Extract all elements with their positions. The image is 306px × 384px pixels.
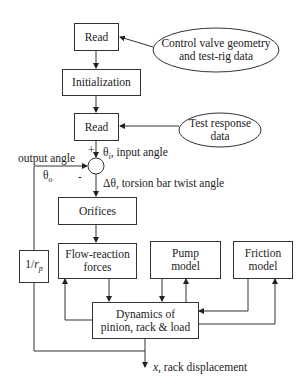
dynamics-line2: pinion, rack & load xyxy=(101,321,190,334)
input-angle-text: , input angle xyxy=(111,146,168,158)
summing-junction xyxy=(88,158,104,174)
friction-line1: Friction xyxy=(245,247,281,260)
initialization-box: Initialization xyxy=(62,69,141,96)
test-response-ellipse: Test response data xyxy=(179,113,261,147)
twist-angle-label: Δθ, torsion bar twist angle xyxy=(103,177,224,190)
output-angle-symbol: θo xyxy=(43,169,53,186)
read-geometry-box: Read xyxy=(74,23,119,51)
ratio-prefix: 1/ xyxy=(25,258,34,270)
output-sub: o xyxy=(49,175,53,184)
ratio-label: 1/rp xyxy=(25,258,42,275)
friction-model-box: Friction model xyxy=(233,241,293,279)
geometry-line1: Control valve geometry xyxy=(161,37,270,50)
pump-line2: model xyxy=(171,260,200,273)
plus-sign: + xyxy=(88,144,95,157)
pump-model-box: Pump model xyxy=(150,241,221,279)
flow-reaction-line2: forces xyxy=(65,261,130,274)
geometry-input-ellipse: Control valve geometry and test-rig data xyxy=(153,28,279,72)
dynamics-box: Dynamics of pinion, rack & load xyxy=(92,302,199,339)
ratio-box: 1/rp xyxy=(19,250,49,283)
initialization-label: Initialization xyxy=(72,76,131,89)
orifices-box: Orifices xyxy=(58,197,137,225)
ratio-sub: p xyxy=(39,264,43,273)
test-line1: Test response xyxy=(189,117,251,130)
pump-line1: Pump xyxy=(171,247,200,260)
geometry-line2: and test-rig data xyxy=(161,50,270,63)
friction-line2: model xyxy=(245,260,281,273)
input-angle-label: θi, input angle xyxy=(103,146,168,163)
test-line2: data xyxy=(189,130,251,143)
dynamics-line1: Dynamics of xyxy=(101,308,190,321)
read-test-box: Read xyxy=(74,113,119,141)
flow-reaction-box: Flow-reaction forces xyxy=(58,243,137,279)
flow-reaction-line1: Flow-reaction xyxy=(65,248,130,261)
read-geometry-label: Read xyxy=(85,31,109,44)
rack-displacement-label: x, rack displacement xyxy=(153,361,247,374)
orifices-label: Orifices xyxy=(79,205,116,218)
rack-text: , rack displacement xyxy=(158,361,247,373)
minus-sign: - xyxy=(78,170,82,183)
output-angle-label: output angle xyxy=(18,152,75,165)
read-test-label: Read xyxy=(85,121,109,134)
